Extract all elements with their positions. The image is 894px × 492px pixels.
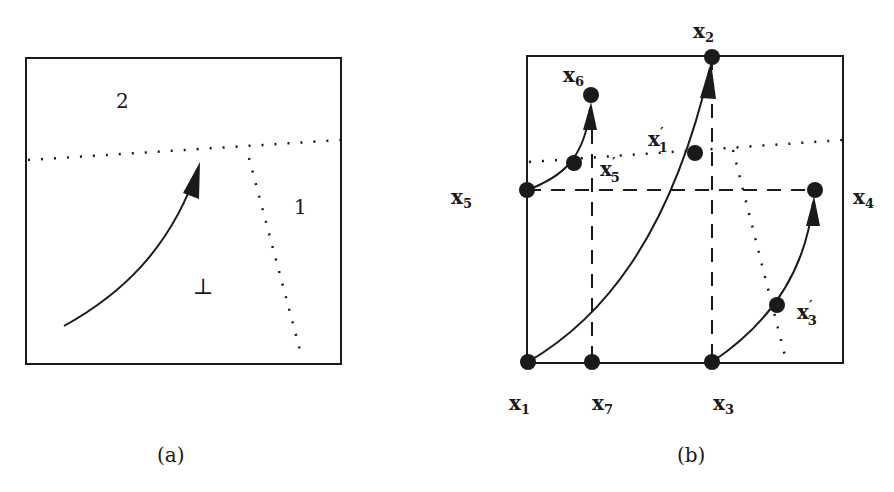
label-x5: x5 <box>451 185 472 211</box>
label-x3-prime: x′3 <box>797 298 817 328</box>
label-x3: x3 <box>713 391 734 417</box>
dotted-boundary-horizontal <box>28 140 340 160</box>
dotted-boundary-sloped <box>733 150 785 356</box>
point-x2 <box>704 49 720 65</box>
region-label-1: 1 <box>294 195 307 219</box>
label-x4: x4 <box>853 185 874 211</box>
dotted-boundary-sloped <box>249 158 301 354</box>
trajectory-x3-x4 <box>712 202 813 362</box>
point-x7 <box>584 354 600 370</box>
point-x1 <box>520 354 536 370</box>
arrowhead-icon <box>806 196 820 226</box>
label-x7: x7 <box>592 391 613 417</box>
caption-a: (a) <box>157 443 185 467</box>
trajectory-arrow <box>64 168 198 326</box>
trajectory-x1-x2 <box>528 68 710 362</box>
point-x3-prime <box>769 297 785 313</box>
panel-a: 2 1 ⊥ (a) <box>26 58 341 467</box>
trajectory-x5-x6 <box>527 108 590 190</box>
arrowhead-icon <box>183 162 200 199</box>
caption-b: (b) <box>677 443 705 467</box>
point-x3 <box>704 354 720 370</box>
label-x5-prime: x′5 <box>600 155 620 185</box>
panel-b-box <box>527 56 843 363</box>
region-label-2: 2 <box>116 89 129 113</box>
label-x1-prime: x′1 <box>648 125 668 155</box>
region-label-bottom: ⊥ <box>193 274 214 299</box>
label-x6: x6 <box>563 63 584 89</box>
point-x5 <box>519 182 535 198</box>
arrowhead-icon <box>700 62 716 99</box>
point-x1-prime <box>687 145 703 161</box>
panel-b: x1 x7 x3 x2 x5 x4 x6 x′5 x′1 x′3 (b) <box>451 19 874 467</box>
figure: 2 1 ⊥ (a) x1 x7 x3 x2 <box>0 0 894 492</box>
point-x6 <box>583 87 599 103</box>
label-x1: x1 <box>509 391 530 417</box>
arrowhead-icon <box>583 102 597 130</box>
point-x4 <box>807 182 823 198</box>
label-x2: x2 <box>693 19 714 45</box>
point-x5-prime <box>566 155 582 171</box>
